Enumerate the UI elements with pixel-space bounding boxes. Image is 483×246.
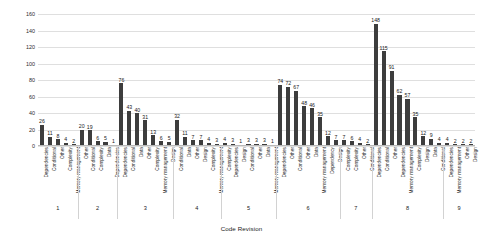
bar-rect <box>88 130 92 146</box>
y-tick-label: 20 <box>29 127 35 133</box>
bar-value-label: 76 <box>119 77 125 83</box>
plot-area: 020406080100120140160 261184220196517643… <box>38 14 475 146</box>
bar: 31 <box>143 120 147 146</box>
bar-value-label: 148 <box>371 17 380 23</box>
bar: 35 <box>413 117 417 146</box>
group-label: 4 <box>195 205 198 211</box>
bar: 32 <box>175 120 179 146</box>
bar-value-label: 72 <box>285 80 291 86</box>
bar-value-label: 5 <box>168 135 171 141</box>
bar: 40 <box>135 113 139 146</box>
bar-rect <box>397 95 401 146</box>
bar-value-label: 11 <box>182 130 187 136</box>
bar-rect <box>382 51 386 146</box>
group-separator <box>173 147 174 219</box>
bar: 35 <box>318 117 322 146</box>
bar-value-label: 91 <box>389 64 395 70</box>
bar-value-label: 8 <box>56 133 59 139</box>
bar-rect <box>143 120 147 146</box>
bar-rect <box>80 130 84 147</box>
bar-value-label: 4 <box>223 136 226 142</box>
group-label: 1 <box>56 205 59 211</box>
bar-value-label: 67 <box>293 84 299 90</box>
bar-value-label: 35 <box>413 111 419 117</box>
y-tick-label: 60 <box>29 94 35 100</box>
bar-rect <box>318 117 322 146</box>
bar-value-label: 46 <box>309 102 315 108</box>
bar: 43 <box>127 111 131 146</box>
group-separator <box>221 147 222 219</box>
bar-value-label: 48 <box>301 100 307 106</box>
bar-value-label: 19 <box>87 124 93 130</box>
bar-value-label: 4 <box>358 136 361 142</box>
y-tick-label: 0 <box>32 143 35 149</box>
bar-value-label: 31 <box>142 114 148 120</box>
bar-value-label: 2 <box>366 138 369 144</box>
bar-value-label: 5 <box>104 135 107 141</box>
bar-value-label: 6 <box>160 135 163 141</box>
bar-value-label: 7 <box>191 134 194 140</box>
bar-rect <box>119 83 123 146</box>
bar-value-label: 20 <box>79 123 85 129</box>
bar: 48 <box>302 106 306 146</box>
group-separators: 123456789 <box>38 147 475 219</box>
group-label: 7 <box>354 205 357 211</box>
bar-value-label: 2 <box>72 138 75 144</box>
y-tick-label: 40 <box>29 110 35 116</box>
bar-value-label: 40 <box>134 107 140 113</box>
bar-value-label: 1 <box>112 138 115 144</box>
group-label: 5 <box>247 205 250 211</box>
bar-value-label: 13 <box>150 129 156 135</box>
bar-value-label: 9 <box>430 132 433 138</box>
bar-rect <box>127 111 131 146</box>
bar-value-label: 4 <box>207 136 210 142</box>
group-label: 3 <box>144 205 147 211</box>
bar-value-label: 2 <box>454 138 457 144</box>
bar-value-label: 4 <box>446 136 449 142</box>
bar-rect <box>405 99 409 146</box>
y-tick-label: 100 <box>26 61 35 67</box>
bar-value-label: 35 <box>317 111 323 117</box>
bar-value-label: 6 <box>96 135 99 141</box>
group-separator <box>340 147 341 219</box>
bar-value-label: 4 <box>438 136 441 142</box>
bar-value-label: 32 <box>174 113 180 119</box>
bars-layer: 2611842201965176434031136532117743431333… <box>38 14 475 146</box>
group-separator <box>78 147 79 219</box>
bar-rect <box>374 24 378 146</box>
bar-rect <box>278 85 282 146</box>
bar: 91 <box>390 71 394 146</box>
bar-rect <box>302 106 306 146</box>
bar-value-label: 7 <box>199 134 202 140</box>
y-tick-label: 140 <box>26 28 35 34</box>
bar-rect <box>135 113 139 146</box>
bar-value-label: 74 <box>277 78 283 84</box>
group-label: 6 <box>307 205 310 211</box>
y-tick-label: 120 <box>26 44 35 50</box>
bar-chart: Number of Lines of Code 0204060801001201… <box>0 0 483 246</box>
bar: 20 <box>80 130 84 147</box>
bar-rect <box>286 87 290 146</box>
y-tick-label: 160 <box>26 11 35 17</box>
bar-value-label: 2 <box>470 138 473 144</box>
bar-value-label: 26 <box>39 118 45 124</box>
bar-rect <box>175 120 179 146</box>
bar-value-label: 3 <box>215 137 218 143</box>
bar: 46 <box>310 108 314 146</box>
group-label: 8 <box>406 205 409 211</box>
bar-value-label: 3 <box>247 137 250 143</box>
bar-value-label: 115 <box>379 45 387 51</box>
bar-value-label: 43 <box>126 104 132 110</box>
bar: 19 <box>88 130 92 146</box>
group-separator <box>276 147 277 219</box>
bar: 57 <box>405 99 409 146</box>
bar: 26 <box>40 125 44 146</box>
x-axis-title: Code Revision <box>0 225 483 232</box>
group-separator <box>443 147 444 219</box>
bar-value-label: 1 <box>239 138 242 144</box>
group-label: 2 <box>96 205 99 211</box>
bar: 62 <box>397 95 401 146</box>
bar-value-label: 62 <box>397 88 403 94</box>
bar-value-label: 11 <box>47 130 52 136</box>
bar-value-label: 12 <box>325 130 331 136</box>
